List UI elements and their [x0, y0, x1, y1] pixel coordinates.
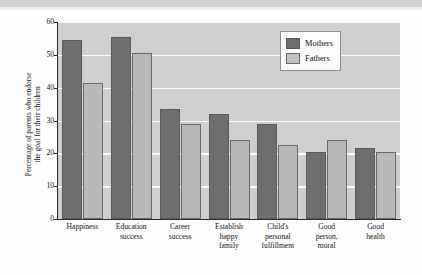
legend-label: Fathers: [305, 54, 330, 64]
y-tick-label: 30: [32, 117, 54, 125]
x-tick-label-line: personal: [250, 232, 305, 242]
x-tick-label-line: moral: [299, 241, 354, 251]
x-tick-label-line: success: [104, 232, 159, 242]
x-tick-label-line: family: [202, 241, 257, 251]
legend-swatch-fathers: [286, 53, 300, 64]
legend-item-fathers: Fathers: [286, 51, 333, 66]
y-tick-label: 0: [32, 215, 54, 223]
y-tick-mark: [54, 22, 57, 23]
y-tick-mark: [54, 121, 57, 122]
x-tick-label-4: Child'spersonalfulfillment: [250, 222, 305, 251]
x-tick-label-line: happy: [202, 232, 257, 242]
x-tick-label-line: fulfillment: [250, 241, 305, 251]
bar-mothers-0: [62, 40, 82, 219]
x-tick-label-line: Establish: [202, 222, 257, 232]
x-tick-label-0: Happiness: [55, 222, 110, 232]
x-tick-label-2: Careersuccess: [153, 222, 208, 241]
gridline: [58, 22, 400, 23]
legend-swatch-mothers: [286, 38, 300, 49]
bar-mothers-3: [209, 114, 229, 219]
x-tick-label-line: success: [153, 232, 208, 242]
y-tick-label: 50: [32, 51, 54, 59]
bar-mothers-2: [160, 109, 180, 219]
figure-page: Percentage of parents who endorse the go…: [0, 0, 422, 275]
page-top-band: [0, 0, 422, 7]
bar-fathers-4: [278, 145, 298, 219]
x-tick-label-3: Establishhappyfamily: [202, 222, 257, 251]
x-tick-label-1: Educationsuccess: [104, 222, 159, 241]
y-axis-tick-labels: 0102030405060: [30, 22, 54, 219]
y-tick-mark: [54, 219, 57, 220]
bar-fathers-2: [181, 124, 201, 219]
gridline: [58, 88, 400, 89]
x-axis-line: [57, 219, 401, 220]
y-axis-line: [57, 22, 58, 220]
y-tick-mark: [54, 55, 57, 56]
legend-item-mothers: Mothers: [286, 36, 333, 51]
x-tick-label-6: Goodhealth: [348, 222, 403, 241]
bar-fathers-3: [230, 140, 250, 219]
x-tick-label-line: health: [348, 232, 403, 242]
x-tick-label-5: Goodperson,moral: [299, 222, 354, 251]
x-axis-tick-labels: HappinessEducationsuccessCareersuccessEs…: [58, 222, 400, 272]
y-tick-mark: [54, 88, 57, 89]
x-tick-label-line: Education: [104, 222, 159, 232]
bar-fathers-5: [327, 140, 347, 219]
x-tick-label-line: Happiness: [55, 222, 110, 232]
y-tick-mark: [54, 153, 57, 154]
x-tick-label-line: person,: [299, 232, 354, 242]
chart-legend: MothersFathers: [280, 31, 341, 71]
y-tick-label: 10: [32, 182, 54, 190]
gridline: [58, 121, 400, 122]
y-tick-mark: [54, 186, 57, 187]
bar-mothers-6: [355, 148, 375, 219]
x-tick-label-line: Good: [299, 222, 354, 232]
x-tick-label-line: Good: [348, 222, 403, 232]
legend-label: Mothers: [305, 39, 333, 49]
y-tick-label: 40: [32, 84, 54, 92]
gridline: [58, 55, 400, 56]
x-tick-label-line: Career: [153, 222, 208, 232]
bar-mothers-1: [111, 37, 131, 219]
plot-area: [58, 22, 400, 219]
y-tick-label: 60: [32, 18, 54, 26]
bar-chart-figure: Percentage of parents who endorse the go…: [0, 10, 422, 275]
x-tick-label-line: Child's: [250, 222, 305, 232]
bar-fathers-1: [132, 53, 152, 219]
bar-fathers-0: [83, 83, 103, 219]
bar-mothers-5: [306, 152, 326, 219]
bar-fathers-6: [376, 152, 396, 219]
y-tick-label: 20: [32, 149, 54, 157]
bar-mothers-4: [257, 124, 277, 219]
